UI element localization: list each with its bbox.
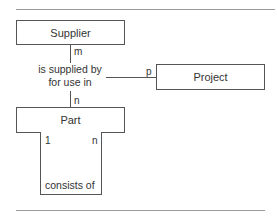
relationship-consists-of-label: consists of — [45, 180, 95, 191]
entity-project: Project — [156, 64, 265, 90]
cardinality-consists-one: 1 — [45, 135, 51, 146]
part-connector — [70, 91, 71, 107]
entity-supplier-label: Supplier — [50, 27, 90, 39]
cardinality-supplier: m — [74, 46, 82, 57]
entity-supplier: Supplier — [16, 20, 125, 45]
bottom-rule — [16, 210, 265, 211]
relationship-supplies: is supplied by for use in — [20, 63, 120, 89]
relationship-label-line2: for use in — [20, 76, 120, 89]
entity-project-label: Project — [193, 71, 227, 83]
supplier-connector — [70, 45, 71, 63]
cardinality-part: n — [74, 95, 80, 106]
entity-part-label: Part — [60, 114, 80, 126]
top-rule — [16, 9, 275, 10]
relationship-label-line1: is supplied by — [20, 63, 120, 76]
cardinality-consists-many: n — [92, 135, 98, 146]
cardinality-project: p — [146, 66, 152, 77]
project-connector — [106, 77, 156, 78]
entity-part: Part — [16, 107, 125, 133]
